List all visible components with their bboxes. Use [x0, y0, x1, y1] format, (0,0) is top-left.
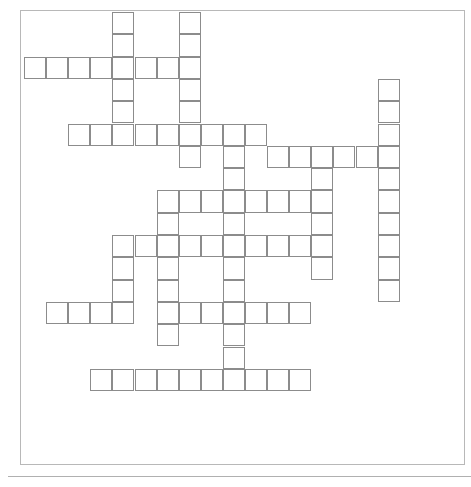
grid-cell[interactable]	[112, 302, 134, 324]
grid-cell[interactable]	[112, 280, 134, 302]
grid-cell[interactable]	[201, 302, 223, 324]
divider	[8, 476, 471, 477]
grid-cell[interactable]	[179, 101, 201, 123]
grid-cell[interactable]	[90, 302, 112, 324]
grid-cell[interactable]	[223, 369, 245, 391]
grid-cell[interactable]	[112, 12, 134, 34]
grid-cell[interactable]	[311, 168, 333, 190]
grid-cell[interactable]	[289, 146, 311, 168]
grid-cell[interactable]	[378, 146, 400, 168]
grid-cell[interactable]	[112, 34, 134, 56]
grid-cell[interactable]	[311, 235, 333, 257]
grid-cell[interactable]	[289, 190, 311, 212]
grid-cell[interactable]	[179, 34, 201, 56]
grid-cell[interactable]	[311, 213, 333, 235]
grid-cell[interactable]	[311, 146, 333, 168]
grid-cell[interactable]	[112, 79, 134, 101]
grid-cell[interactable]	[179, 235, 201, 257]
grid-cell[interactable]	[201, 190, 223, 212]
grid-cell[interactable]	[378, 257, 400, 279]
grid-cell[interactable]	[378, 168, 400, 190]
grid-cell[interactable]	[179, 302, 201, 324]
grid-cell[interactable]	[245, 369, 267, 391]
grid-cell[interactable]	[179, 190, 201, 212]
grid-cell[interactable]	[135, 57, 157, 79]
grid-cell[interactable]	[135, 235, 157, 257]
grid-cell[interactable]	[157, 57, 179, 79]
grid-cell[interactable]	[157, 235, 179, 257]
grid-cell[interactable]	[157, 257, 179, 279]
grid-cell[interactable]	[223, 190, 245, 212]
grid-cell[interactable]	[223, 280, 245, 302]
grid-cell[interactable]	[245, 235, 267, 257]
grid-cell[interactable]	[46, 57, 68, 79]
grid-cell[interactable]	[179, 124, 201, 146]
grid-cell[interactable]	[378, 79, 400, 101]
grid-cell[interactable]	[333, 146, 355, 168]
grid-cell[interactable]	[289, 369, 311, 391]
grid-cell[interactable]	[157, 190, 179, 212]
grid-cell[interactable]	[179, 146, 201, 168]
grid-cell[interactable]	[356, 146, 378, 168]
grid-cell[interactable]	[223, 347, 245, 369]
grid-cell[interactable]	[223, 213, 245, 235]
grid-cell[interactable]	[311, 257, 333, 279]
grid-cell[interactable]	[179, 369, 201, 391]
grid-cell[interactable]	[112, 235, 134, 257]
grid-cell[interactable]	[267, 190, 289, 212]
grid-cell[interactable]	[68, 124, 90, 146]
grid-cell[interactable]	[378, 213, 400, 235]
grid-cell[interactable]	[378, 124, 400, 146]
grid-cell[interactable]	[112, 369, 134, 391]
grid-cell[interactable]	[135, 369, 157, 391]
grid-cell[interactable]	[68, 57, 90, 79]
grid-cell[interactable]	[90, 57, 112, 79]
grid-cell[interactable]	[157, 302, 179, 324]
grid-cell[interactable]	[245, 302, 267, 324]
grid-cell[interactable]	[378, 101, 400, 123]
grid-cell[interactable]	[378, 235, 400, 257]
grid-cell[interactable]	[112, 101, 134, 123]
grid-cell[interactable]	[289, 302, 311, 324]
grid-cell[interactable]	[179, 12, 201, 34]
grid-cell[interactable]	[267, 369, 289, 391]
grid-cell[interactable]	[223, 124, 245, 146]
grid-cell[interactable]	[223, 302, 245, 324]
grid-cell[interactable]	[201, 124, 223, 146]
grid-cell[interactable]	[201, 369, 223, 391]
grid-cell[interactable]	[112, 257, 134, 279]
grid-cell[interactable]	[68, 302, 90, 324]
grid-cell[interactable]	[112, 124, 134, 146]
grid-cell[interactable]	[90, 124, 112, 146]
grid-cell[interactable]	[157, 124, 179, 146]
grid-cell[interactable]	[112, 57, 134, 79]
grid-cell[interactable]	[267, 302, 289, 324]
grid-cell[interactable]	[179, 79, 201, 101]
grid-cell[interactable]	[24, 57, 46, 79]
grid-cell[interactable]	[179, 57, 201, 79]
grid-cell[interactable]	[46, 302, 68, 324]
grid-cell[interactable]	[223, 235, 245, 257]
grid-cell[interactable]	[245, 190, 267, 212]
grid-cell[interactable]	[223, 257, 245, 279]
grid-cell[interactable]	[223, 168, 245, 190]
grid-cell[interactable]	[157, 280, 179, 302]
grid-cell[interactable]	[289, 235, 311, 257]
grid-cell[interactable]	[157, 369, 179, 391]
grid-cell[interactable]	[223, 146, 245, 168]
grid-cell[interactable]	[223, 324, 245, 346]
grid-cell[interactable]	[378, 280, 400, 302]
grid-cell[interactable]	[378, 190, 400, 212]
grid-cell[interactable]	[157, 213, 179, 235]
grid-cell[interactable]	[267, 235, 289, 257]
grid-cell[interactable]	[90, 369, 112, 391]
grid-cell[interactable]	[267, 146, 289, 168]
grid-cell[interactable]	[311, 190, 333, 212]
grid-cell[interactable]	[157, 324, 179, 346]
grid-cell[interactable]	[135, 124, 157, 146]
puzzle-title	[150, 0, 340, 3]
grid-cell[interactable]	[245, 124, 267, 146]
grid-cell[interactable]	[201, 235, 223, 257]
